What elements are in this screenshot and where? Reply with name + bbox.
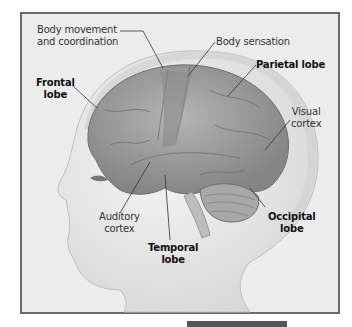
label-body-sensation: Body sensation: [216, 36, 290, 48]
label-visual-cortex: Visual cortex: [291, 106, 321, 130]
label-parietal-lobe: Parietal lobe: [256, 59, 325, 71]
label-line: cortex: [99, 223, 140, 235]
label-line: Body movement: [37, 24, 118, 36]
label-line: lobe: [148, 254, 198, 266]
label-line: Auditory: [99, 211, 140, 223]
label-line: Visual: [291, 106, 321, 118]
label-auditory-cortex: Auditory cortex: [99, 211, 140, 235]
brain-illustration: [0, 0, 352, 327]
label-line: Temporal: [148, 242, 198, 254]
label-body-movement: Body movement and coordination: [37, 24, 118, 48]
label-line: cortex: [291, 118, 321, 130]
label-temporal-lobe: Temporal lobe: [148, 242, 198, 266]
label-line: Frontal: [36, 77, 75, 89]
label-occipital-lobe: Occipital lobe: [268, 211, 316, 235]
label-line: lobe: [36, 89, 75, 101]
label-line: and coordination: [37, 36, 118, 48]
label-line: lobe: [268, 223, 316, 235]
caption-bar: [187, 321, 287, 327]
label-frontal-lobe: Frontal lobe: [36, 77, 75, 101]
label-line: Occipital: [268, 211, 316, 223]
